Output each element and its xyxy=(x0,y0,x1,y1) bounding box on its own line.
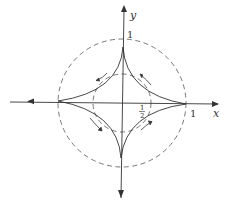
flow-arrow-lower-left xyxy=(90,118,101,130)
y-axis-label: y xyxy=(129,9,137,22)
x-axis-label: x xyxy=(213,107,220,120)
y-axis xyxy=(121,10,124,198)
half-label: 1 2 xyxy=(139,104,145,120)
astroid-diagram: y 1 1 x 1 2 xyxy=(0,0,233,206)
x-axis xyxy=(10,102,218,104)
y-tick-one-label: 1 xyxy=(127,29,133,40)
half-denominator: 2 xyxy=(140,112,144,120)
x-tick-one-label: 1 xyxy=(190,108,196,119)
down-flow-arrow-icon xyxy=(118,190,124,198)
left-flow-arrow-icon xyxy=(27,99,34,105)
y-axis-arrow-icon xyxy=(121,5,127,12)
half-numerator: 1 xyxy=(140,104,144,112)
